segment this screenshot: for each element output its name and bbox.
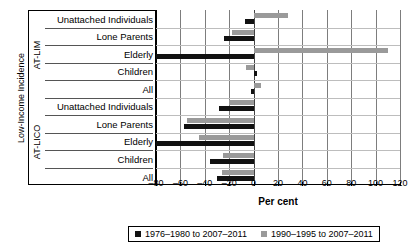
bar	[223, 153, 254, 158]
row-separator	[156, 115, 400, 116]
row-separator	[156, 150, 400, 151]
row-separator	[156, 28, 400, 29]
bar	[246, 65, 253, 70]
bar	[254, 13, 288, 18]
y-axis-title-text: Low-Income Incidence	[16, 52, 26, 142]
plot-area	[156, 10, 400, 185]
row-separator	[156, 133, 400, 134]
bar	[210, 159, 254, 164]
x-axis-title: Per cent	[156, 196, 400, 207]
axis-tick-label: 60	[322, 178, 332, 188]
bar	[156, 54, 254, 59]
row-separator	[156, 168, 400, 169]
axis-tick-label: –40	[197, 178, 212, 188]
gridline	[400, 10, 401, 185]
category-label: Lone Parents	[45, 116, 153, 134]
legend-item-series-2: 1990–1995 to 2007–2011	[261, 229, 373, 239]
legend-item-series-1: 1976–1980 to 2007–2011	[135, 229, 247, 239]
bar	[199, 135, 254, 140]
bar	[219, 106, 253, 111]
axis-tick-label: 80	[346, 178, 356, 188]
legend-label-series-1: 1976–1980 to 2007–2011	[145, 229, 247, 239]
y-axis-title: Low-Income Incidence	[14, 10, 28, 185]
bar	[156, 141, 254, 146]
group-label-at-lim: AT-LIM	[29, 11, 45, 99]
axis-tick-label: –20	[222, 178, 237, 188]
axis-tick-label: 20	[273, 178, 283, 188]
bar	[229, 100, 253, 105]
group-label-at-lico-text: AT-LICO	[32, 125, 42, 159]
category-label: Children	[45, 151, 153, 169]
row-separator	[156, 98, 400, 99]
group-label-at-lico: AT-LICO	[29, 99, 45, 187]
category-label: Unattached Individuals	[45, 11, 153, 29]
row-separator	[156, 80, 400, 81]
legend-swatch-icon-series-2	[261, 231, 267, 237]
category-label-box: AT-LIM AT-LICO Unattached IndividualsLon…	[28, 10, 156, 185]
row-separator	[156, 45, 400, 46]
bar	[184, 124, 254, 129]
category-label: All	[45, 169, 153, 187]
axis-tick-label: 120	[392, 178, 407, 188]
category-label: Elderly	[45, 46, 153, 64]
bar	[254, 48, 388, 53]
bar	[245, 19, 254, 24]
category-label: Children	[45, 64, 153, 82]
category-list: Unattached IndividualsLone ParentsElderl…	[45, 11, 155, 184]
bar	[187, 118, 254, 123]
axis-tick-label: 100	[368, 178, 383, 188]
group-label-at-lim-text: AT-LIM	[32, 41, 42, 69]
low-income-incidence-chart: Low-Income Incidence AT-LIM AT-LICO Unat…	[0, 0, 420, 250]
category-label: Lone Parents	[45, 29, 153, 47]
axis-tick-label: –80	[148, 178, 163, 188]
category-label: All	[45, 81, 153, 99]
axis-tick-label: 40	[297, 178, 307, 188]
axis-tick-label: –60	[173, 178, 188, 188]
category-label: Unattached Individuals	[45, 99, 153, 117]
legend-label-series-2: 1990–1995 to 2007–2011	[271, 229, 373, 239]
bar	[254, 83, 261, 88]
bar	[224, 36, 253, 41]
bar	[251, 89, 253, 94]
chart-legend: 1976–1980 to 2007–2011 1990–1995 to 2007…	[128, 226, 380, 242]
bar	[232, 30, 254, 35]
bar	[222, 170, 254, 175]
row-separator	[156, 63, 400, 64]
category-label: Elderly	[45, 134, 153, 152]
bar	[254, 71, 258, 76]
axis-tick-label: 0	[251, 178, 256, 188]
legend-swatch-icon-series-1	[135, 231, 141, 237]
